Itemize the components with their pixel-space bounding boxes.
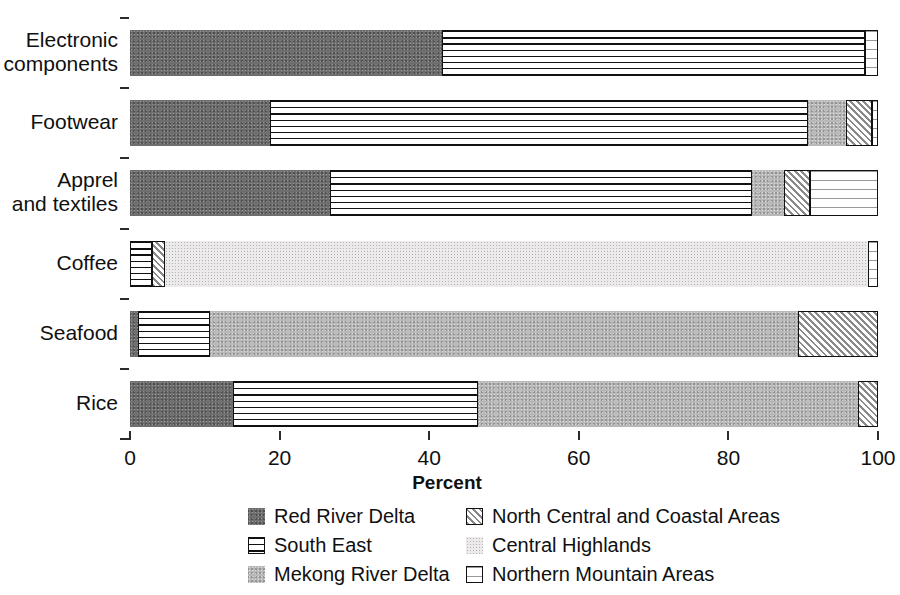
y-tick-6 [120, 438, 129, 440]
bar-segment-mrd [478, 381, 858, 427]
x-tick-80 [727, 431, 729, 440]
category-label-line: Footwear [0, 110, 118, 134]
bar-segment-rrd [130, 30, 442, 76]
bar-segment-rrd [130, 100, 270, 146]
legend-swatch-se-icon [248, 537, 265, 554]
category-label-2: Appreland textiles [0, 168, 118, 216]
x-axis-title: Percent [0, 472, 894, 494]
x-tick-60 [578, 431, 580, 440]
x-tick-0 [129, 431, 131, 440]
category-label-line: Rice [0, 391, 118, 415]
bar-0 [130, 30, 878, 76]
bar-1 [130, 100, 878, 146]
bar-3 [130, 241, 878, 287]
category-label-line: components [0, 52, 118, 76]
category-label-line: Electronic [0, 28, 118, 52]
x-tick-label-60: 60 [549, 446, 609, 470]
bar-2 [130, 170, 878, 216]
bar-segment-se [233, 381, 478, 427]
bar-segment-nma [872, 100, 878, 146]
legend-item-ch: Central Highlands [466, 534, 651, 557]
bar-segment-se [330, 170, 753, 216]
category-label-line: and textiles [0, 192, 118, 216]
legend-swatch-ncca-icon [466, 508, 483, 525]
bar-segment-ncca [846, 100, 872, 146]
bar-segment-nma [865, 30, 878, 76]
legend-label-mrd: Mekong River Delta [274, 563, 450, 586]
y-tick-5 [120, 368, 129, 370]
y-tick-4 [120, 298, 129, 300]
bar-segment-rrd [130, 381, 233, 427]
legend-row: South EastCentral Highlands [248, 534, 888, 557]
legend-swatch-nma-icon [466, 566, 483, 583]
bar-segment-se [442, 30, 865, 76]
bar-segment-rrd [130, 311, 138, 357]
legend-swatch-rrd-icon [248, 508, 265, 525]
legend-label-rrd: Red River Delta [274, 505, 415, 528]
y-tick-0 [120, 17, 129, 19]
legend-swatch-ch-icon [466, 537, 483, 554]
bar-segment-ncca [784, 170, 810, 216]
x-tick-label-0: 0 [100, 446, 160, 470]
category-label-line: Seafood [0, 321, 118, 345]
bar-segment-mrd [210, 311, 798, 357]
y-tick-1 [120, 87, 129, 89]
x-tick-20 [279, 431, 281, 440]
bar-segment-ncca [798, 311, 878, 357]
bar-segment-ncca [152, 241, 165, 287]
bar-segment-mrd [808, 100, 846, 146]
x-tick-40 [428, 431, 430, 440]
bar-segment-mrd [752, 170, 783, 216]
legend-item-ncca: North Central and Coastal Areas [466, 505, 780, 528]
legend-item-nma: Northern Mountain Areas [466, 563, 714, 586]
category-label-0: Electroniccomponents [0, 28, 118, 76]
bar-segment-nma [868, 241, 878, 287]
category-label-line: Apprel [0, 168, 118, 192]
bar-segment-ncca [858, 381, 878, 427]
y-tick-3 [120, 228, 129, 230]
bar-4 [130, 311, 878, 357]
category-label-5: Rice [0, 391, 118, 415]
bar-segment-se [270, 100, 808, 146]
legend-item-mrd: Mekong River Delta [248, 563, 466, 586]
legend-label-ch: Central Highlands [492, 534, 651, 557]
bar-segment-rrd [130, 170, 330, 216]
legend-item-rrd: Red River Delta [248, 505, 466, 528]
legend-row: Red River DeltaNorth Central and Coastal… [248, 505, 888, 528]
category-label-3: Coffee [0, 251, 118, 275]
y-tick-2 [120, 157, 129, 159]
bar-segment-se [130, 241, 152, 287]
bar-segment-ch [165, 241, 868, 287]
legend-label-ncca: North Central and Coastal Areas [492, 505, 780, 528]
category-label-1: Footwear [0, 110, 118, 134]
legend-row: Mekong River DeltaNorthern Mountain Area… [248, 563, 888, 586]
chart-legend: Red River DeltaNorth Central and Coastal… [248, 505, 888, 592]
bar-segment-se [138, 311, 210, 357]
bar-5 [130, 381, 878, 427]
legend-label-nma: Northern Mountain Areas [492, 563, 714, 586]
legend-swatch-mrd-icon [248, 566, 265, 583]
x-tick-label-80: 80 [698, 446, 758, 470]
category-label-4: Seafood [0, 321, 118, 345]
x-tick-label-40: 40 [399, 446, 459, 470]
legend-label-se: South East [274, 534, 372, 557]
x-tick-100 [877, 431, 879, 440]
x-tick-label-100: 100 [848, 446, 900, 470]
bar-segment-nma [810, 170, 878, 216]
category-label-line: Coffee [0, 251, 118, 275]
x-tick-label-20: 20 [250, 446, 310, 470]
legend-item-se: South East [248, 534, 466, 557]
